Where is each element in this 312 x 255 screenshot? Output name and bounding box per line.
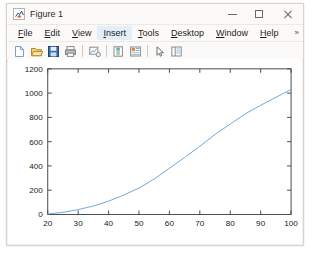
insert-legend-icon[interactable]	[127, 43, 143, 59]
maximize-button[interactable]	[246, 4, 272, 24]
figure-canvas[interactable]: 0200400600800100012002030405060708090100	[8, 59, 302, 244]
y-tick-label: 1200	[25, 65, 44, 74]
x-tick-label: 80	[226, 219, 236, 228]
save-figure-icon[interactable]	[45, 43, 61, 59]
menu-bar: File Edit View Insert Tools Desktop Wind…	[7, 25, 303, 42]
menu-item-label: dit	[51, 28, 61, 38]
y-tick-label: 600	[29, 138, 43, 147]
menu-item-label: esktop	[177, 28, 204, 38]
menu-item-tools[interactable]: Tools	[132, 26, 165, 40]
title-bar: Figure 1	[7, 4, 303, 25]
insert-colorbar-icon[interactable]	[110, 43, 126, 59]
maximize-icon	[255, 10, 263, 18]
menu-item-desktop[interactable]: Desktop	[165, 26, 210, 40]
menu-item-view[interactable]: View	[66, 26, 97, 40]
close-button[interactable]	[274, 4, 300, 24]
y-tick-label: 400	[29, 162, 43, 171]
menu-item-label: ools	[142, 28, 159, 38]
y-tick-label: 0	[38, 210, 43, 219]
hide-plot-tools-icon[interactable]	[168, 43, 184, 59]
toolbar-separator	[82, 45, 83, 57]
menu-item-window[interactable]: Window	[210, 26, 254, 40]
window-title: Figure 1	[30, 7, 63, 21]
toolbar-separator	[147, 45, 148, 57]
close-icon	[283, 10, 292, 19]
y-tick-label: 200	[29, 186, 43, 195]
x-tick-label: 50	[134, 219, 144, 228]
minimize-button[interactable]	[219, 4, 245, 24]
x-tick-label: 70	[195, 219, 205, 228]
y-tick-label: 1000	[25, 89, 44, 98]
x-tick-label: 60	[165, 219, 175, 228]
menu-overflow-chevron-icon[interactable]: »	[295, 28, 299, 37]
plot-frame	[48, 69, 291, 215]
x-tick-label: 100	[284, 219, 298, 228]
x-tick-label: 20	[43, 219, 53, 228]
menu-item-label: elp	[267, 28, 279, 38]
toolbar-separator	[106, 45, 107, 57]
link-plot-icon[interactable]	[86, 43, 102, 59]
y-tick-label: 800	[29, 113, 43, 122]
menu-item-label: iew	[78, 28, 92, 38]
open-file-icon[interactable]	[28, 43, 44, 59]
menu-item-label: ile	[24, 28, 33, 38]
print-figure-icon[interactable]	[62, 43, 78, 59]
minimize-icon	[228, 14, 237, 15]
matlab-figure-icon	[13, 8, 25, 20]
menu-item-edit[interactable]: Edit	[39, 26, 67, 40]
figure-window: Figure 1 File Edit View Insert Tools Des…	[6, 3, 304, 246]
axes: 0200400600800100012002030405060708090100	[8, 59, 302, 244]
plot-svg[interactable]: 0200400600800100012002030405060708090100	[8, 59, 302, 244]
x-tick-label: 40	[104, 219, 114, 228]
menu-item-help[interactable]: Help	[254, 26, 285, 40]
edit-plot-icon[interactable]	[151, 43, 167, 59]
menu-item-label: nsert	[106, 28, 126, 38]
menu-item-insert[interactable]: Insert	[97, 26, 132, 40]
x-tick-label: 90	[256, 219, 266, 228]
menu-item-file[interactable]: File	[12, 26, 39, 40]
x-tick-label: 30	[74, 219, 84, 228]
menu-item-label: indow	[224, 28, 248, 38]
screenshot-root: Figure 1 File Edit View Insert Tools Des…	[0, 0, 312, 255]
new-figure-icon[interactable]	[11, 43, 27, 59]
